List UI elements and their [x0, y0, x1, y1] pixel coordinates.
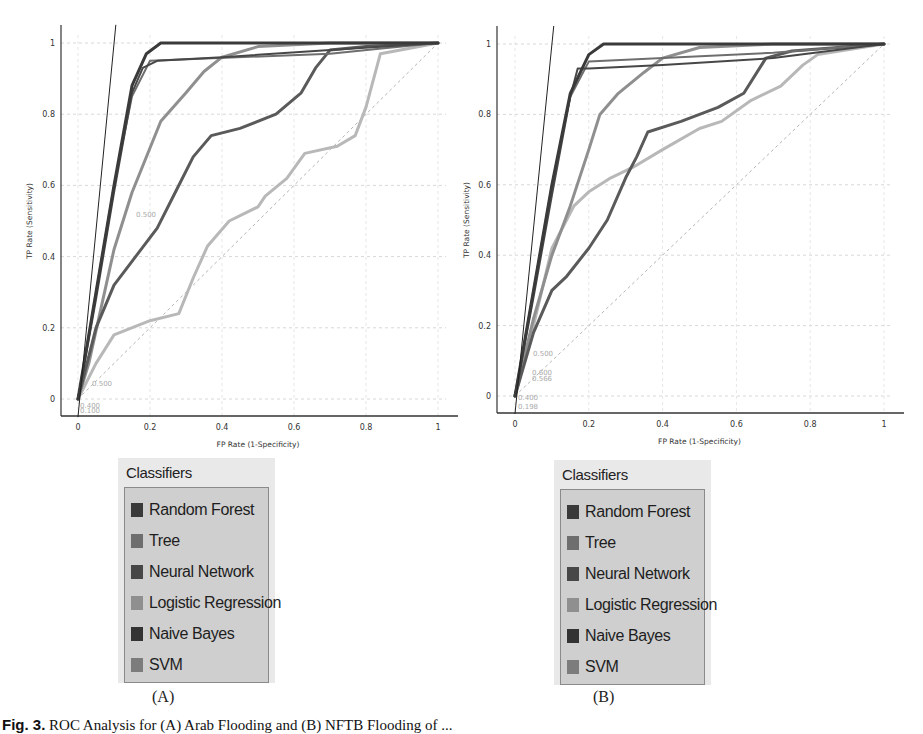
svg-text:0.6: 0.6	[478, 181, 491, 190]
panel-label-b: (B)	[593, 688, 614, 706]
legend-title: Classifiers	[126, 464, 269, 481]
svg-text:0.6: 0.6	[730, 420, 743, 429]
legend-item-logistic-regression: Logistic Regression	[131, 587, 262, 618]
svg-text:0.8: 0.8	[42, 110, 55, 119]
svg-text:0: 0	[50, 395, 55, 404]
roc-chart-b: 00.20.40.60.8100.20.40.60.81FP Rate (1-S…	[460, 0, 923, 450]
svg-text:0: 0	[75, 423, 80, 432]
swatch-icon	[131, 658, 143, 672]
svg-text:0.500: 0.500	[533, 350, 553, 358]
swatch-icon	[131, 627, 143, 641]
caption-text: ROC Analysis for (A) Arab Flooding and (…	[49, 717, 452, 733]
legend-item-neural-network: Neural Network	[131, 556, 262, 587]
svg-text:0.8: 0.8	[804, 420, 817, 429]
svg-text:0.8: 0.8	[360, 423, 373, 432]
svg-text:0.4: 0.4	[478, 251, 491, 260]
svg-text:0.566: 0.566	[532, 375, 553, 383]
legend-item-naive-bayes: Naive Bayes	[567, 620, 698, 651]
svg-text:0.500: 0.500	[92, 380, 112, 388]
legend-item-svm: SVM	[131, 649, 262, 680]
swatch-icon	[567, 598, 579, 612]
svg-text:0.2: 0.2	[42, 324, 55, 333]
svg-text:0.198: 0.198	[518, 403, 538, 411]
svg-text:0.2: 0.2	[144, 423, 157, 432]
svg-text:0: 0	[486, 392, 491, 401]
swatch-icon	[131, 503, 143, 517]
svg-text:0.500: 0.500	[136, 211, 156, 219]
legend-item-neural-network: Neural Network	[567, 558, 698, 589]
svg-text:0.4: 0.4	[42, 253, 55, 262]
panel-label-a: (A)	[152, 688, 174, 706]
svg-text:0.2: 0.2	[478, 322, 491, 331]
legend-item-tree: Tree	[567, 527, 698, 558]
swatch-icon	[567, 660, 579, 674]
svg-text:0.8: 0.8	[478, 110, 491, 119]
svg-text:1: 1	[486, 40, 491, 49]
swatch-icon	[131, 565, 143, 579]
legend-item-svm: SVM	[567, 651, 698, 682]
swatch-icon	[567, 505, 579, 519]
legend-item-naive-bayes: Naive Bayes	[131, 618, 262, 649]
legend-b: Classifiers Random Forest Tree Neural Ne…	[554, 460, 711, 685]
caption-prefix: Fig. 3.	[2, 716, 45, 733]
svg-text:0.4: 0.4	[656, 420, 669, 429]
legend-item-tree: Tree	[131, 525, 262, 556]
swatch-icon	[567, 567, 579, 581]
legend-item-random-forest: Random Forest	[567, 496, 698, 527]
svg-text:0.6: 0.6	[42, 181, 55, 190]
svg-text:0.4: 0.4	[216, 423, 229, 432]
legend-a: Classifiers Random Forest Tree Neural Ne…	[118, 458, 275, 683]
svg-text:1: 1	[435, 423, 440, 432]
legend-item-logistic-regression: Logistic Regression	[567, 589, 698, 620]
swatch-icon	[131, 596, 143, 610]
svg-text:0.100: 0.100	[80, 407, 100, 415]
svg-text:0.400: 0.400	[518, 394, 538, 402]
svg-text:TP Rate (Sensitivity): TP Rate (Sensitivity)	[462, 182, 471, 259]
legend-box: Random Forest Tree Neural Network Logist…	[560, 489, 705, 685]
svg-text:0.6: 0.6	[288, 423, 301, 432]
svg-text:0.2: 0.2	[582, 420, 595, 429]
svg-text:FP Rate (1-Specificity): FP Rate (1-Specificity)	[658, 437, 741, 446]
roc-plot-b: 00.20.40.60.8100.20.40.60.81FP Rate (1-S…	[460, 0, 923, 450]
roc-chart-a: 00.20.40.60.8100.20.40.60.81FP Rate (1-S…	[0, 0, 460, 450]
legend-item-random-forest: Random Forest	[131, 494, 262, 525]
swatch-icon	[131, 534, 143, 548]
svg-text:TP Rate (Sensitivity): TP Rate (Sensitivity)	[25, 183, 34, 260]
swatch-icon	[567, 536, 579, 550]
svg-text:1: 1	[50, 39, 55, 48]
legend-box: Random Forest Tree Neural Network Logist…	[124, 487, 269, 683]
svg-text:FP Rate (1-Specificity): FP Rate (1-Specificity)	[217, 440, 300, 449]
figure-caption: Fig. 3. ROC Analysis for (A) Arab Floodi…	[2, 716, 452, 734]
svg-text:0: 0	[512, 420, 517, 429]
roc-plot-a: 00.20.40.60.8100.20.40.60.81FP Rate (1-S…	[0, 0, 460, 450]
legend-title: Classifiers	[562, 466, 705, 483]
svg-text:1: 1	[881, 420, 886, 429]
swatch-icon	[567, 629, 579, 643]
